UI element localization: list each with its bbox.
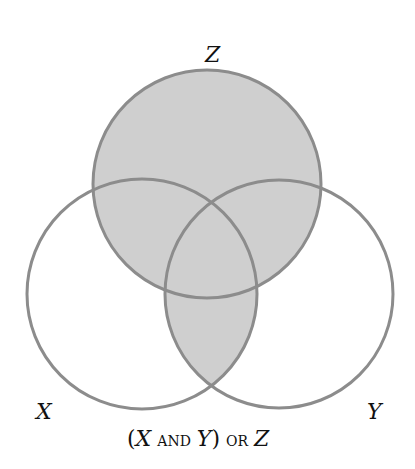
- caption-z: Z: [253, 426, 270, 451]
- caption-or: OR: [226, 433, 248, 449]
- label-y: Y: [367, 399, 384, 424]
- caption-and: AND: [156, 433, 191, 449]
- caption-close-paren: ): [211, 426, 220, 451]
- caption: (XANDY)ORZ: [127, 426, 270, 451]
- label-z: Z: [204, 42, 221, 67]
- caption-open-paren: (: [127, 426, 136, 451]
- venn-diagram: Z X Y (XANDY)ORZ: [0, 0, 415, 469]
- label-x: X: [34, 399, 53, 424]
- caption-x: X: [134, 426, 153, 451]
